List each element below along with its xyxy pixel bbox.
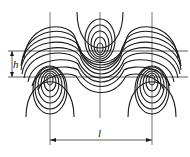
label-l: l bbox=[98, 127, 101, 139]
label-h: h bbox=[13, 58, 19, 70]
vortex-street-diagram bbox=[0, 0, 190, 157]
